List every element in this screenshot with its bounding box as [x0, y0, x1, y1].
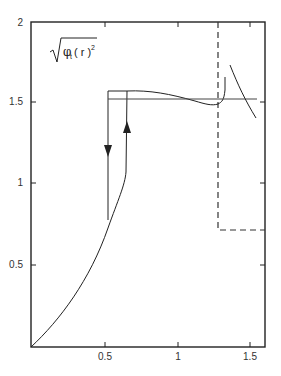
y-tick-label: 1: [17, 177, 23, 188]
dashed-boundary: [218, 22, 265, 230]
svg-text:( r ): ( r ): [74, 46, 91, 58]
plot-frame: [31, 22, 265, 347]
y-tick-label: 1.5: [9, 96, 23, 107]
x-axis: [105, 22, 250, 347]
y-axis-label: φ t ( r ) 2: [50, 38, 97, 62]
x-tick-label: 0.5: [98, 351, 112, 362]
chart: 0.5 1 1.5 2 0.5 1 1.5 φ t ( r ) 2: [0, 0, 281, 376]
svg-text:2: 2: [91, 44, 95, 51]
y-tick-label: 2: [17, 17, 23, 28]
arrow-up-icon: [123, 121, 131, 133]
upper-branch-curve: [108, 77, 225, 105]
lower-branch-curve: [31, 91, 127, 347]
x-tick-label: 1.5: [243, 351, 257, 362]
arrow-down-icon: [104, 145, 112, 157]
y-axis: [31, 102, 265, 265]
y-tick-label: 0.5: [9, 259, 23, 270]
x-tick-label: 1: [175, 351, 181, 362]
separate-branch-curve: [230, 65, 256, 118]
svg-text:t: t: [70, 53, 72, 60]
